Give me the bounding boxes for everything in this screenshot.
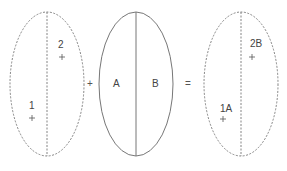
point-marker-2b: [249, 54, 255, 60]
point-marker-2: [59, 54, 65, 60]
point-marker-1: [29, 115, 35, 121]
diagram-canvas: 2 1 + A B = 2B 1A: [0, 0, 287, 171]
point-label-1a: 1A: [220, 103, 233, 114]
plus-operator: +: [87, 78, 93, 89]
middle-ellipse: A B: [99, 12, 173, 156]
half-label-b: B: [152, 78, 159, 89]
right-ellipse: 2B 1A: [204, 12, 278, 156]
point-marker-1a: [220, 116, 226, 122]
left-ellipse: 2 1: [10, 12, 84, 156]
point-label-2b: 2B: [250, 38, 263, 49]
point-label-2: 2: [58, 39, 64, 50]
point-label-1: 1: [29, 100, 35, 111]
equals-operator: =: [185, 78, 191, 89]
half-label-a: A: [113, 78, 120, 89]
